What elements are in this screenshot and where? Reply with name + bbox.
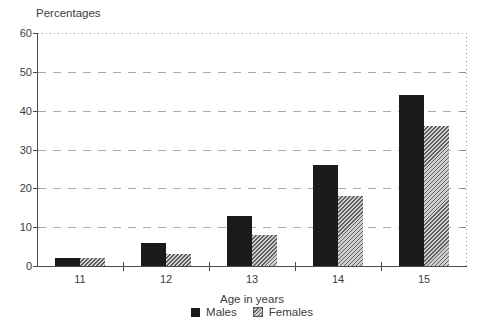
legend: Males Females <box>37 306 467 318</box>
bar-males-14 <box>313 165 338 266</box>
plot-area <box>37 33 467 267</box>
x-boundary-tick-1 <box>123 262 124 271</box>
x-tick-label-14: 14 <box>318 273 358 285</box>
y-axis-line <box>37 33 38 267</box>
x-axis-title: Age in years <box>37 293 467 305</box>
bar-males-15 <box>399 95 424 266</box>
y-tick-right-10 <box>461 227 466 228</box>
y-tick-label-40: 40 <box>0 105 32 117</box>
plot-right-border <box>466 33 467 267</box>
legend-label-males: Males <box>206 306 237 318</box>
bar-males-13 <box>227 216 252 266</box>
y-tick-right-20 <box>461 188 466 189</box>
y-tick-left-50 <box>33 72 37 73</box>
x-boundary-tick-3 <box>295 262 296 271</box>
x-boundary-tick-2 <box>209 262 210 271</box>
y-axis-tick-labels: 0102030405060 <box>0 33 32 267</box>
y-axis-title: Percentages <box>36 7 101 19</box>
x-tick-label-11: 11 <box>60 273 100 285</box>
legend-item-males: Males <box>191 306 237 318</box>
bar-females-14 <box>338 196 363 266</box>
bar-males-12 <box>141 243 166 266</box>
y-tick-label-10: 10 <box>0 221 32 233</box>
x-boundary-tick-4 <box>381 262 382 271</box>
x-axis-tick-labels: 1112131415 <box>37 273 467 287</box>
y-tick-right-30 <box>461 150 466 151</box>
gridline-50 <box>38 72 466 73</box>
y-tick-left-30 <box>33 150 37 151</box>
y-tick-label-0: 0 <box>0 260 32 272</box>
bar-females-13 <box>252 235 277 266</box>
y-tick-right-50 <box>461 72 466 73</box>
bar-males-11 <box>55 258 80 266</box>
y-tick-left-20 <box>33 188 37 189</box>
y-tick-label-20: 20 <box>0 182 32 194</box>
y-tick-right-40 <box>461 111 466 112</box>
x-axis-line <box>37 266 467 267</box>
gridline-60 <box>38 33 466 34</box>
x-tick-label-13: 13 <box>232 273 272 285</box>
y-tick-label-60: 60 <box>0 27 32 39</box>
legend-item-females: Females <box>253 306 313 318</box>
y-tick-left-60 <box>33 33 37 34</box>
bar-females-11 <box>80 258 105 266</box>
y-tick-left-40 <box>33 111 37 112</box>
legend-label-females: Females <box>269 306 313 318</box>
males-swatch-icon <box>191 308 200 317</box>
x-tick-label-12: 12 <box>146 273 186 285</box>
females-swatch-icon <box>253 307 263 317</box>
y-tick-left-0 <box>33 266 37 267</box>
bar-females-15 <box>424 126 449 266</box>
bar-chart-figure: Percentages 0102030405060 1112131415 Age… <box>0 0 480 332</box>
y-tick-label-50: 50 <box>0 66 32 78</box>
y-tick-label-30: 30 <box>0 144 32 156</box>
x-tick-label-15: 15 <box>404 273 444 285</box>
bar-females-12 <box>166 254 191 266</box>
y-tick-left-10 <box>33 227 37 228</box>
